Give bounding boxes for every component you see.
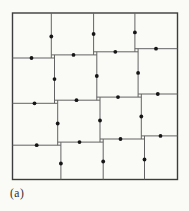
edge-midpoint-dot [33,101,37,105]
edge-midpoint-dot [154,47,158,51]
edge-midpoint-dot [49,35,53,39]
edge-midpoint-dot [35,143,39,147]
edge-midpoint-dot [92,32,96,36]
edge-midpoint-dot [75,98,79,102]
edge-midpoint-dot [78,140,82,144]
edge-midpoint-dot [101,160,105,164]
edge-midpoint-dot [119,137,123,141]
edge-midpoint-dot [72,53,76,57]
edge-midpoint-dot [113,50,117,54]
edge-midpoint-dot [139,115,143,119]
edge-midpoint-dot [56,122,60,126]
edge-midpoint-dot [133,31,137,35]
edge-midpoint-dot [30,56,34,60]
edge-midpoint-dot [143,158,147,162]
figure-panel: (a) [0,0,189,211]
edge-midpoint-dot [159,134,163,138]
edge-midpoint-dot [116,95,120,99]
square-tiling-diagram [0,0,189,211]
edge-midpoint-dot [98,119,102,123]
edge-midpoint-dot [95,74,99,78]
edge-midpoint-dot [156,92,160,96]
edge-midpoint-dot [53,77,57,81]
edge-midpoint-dot [59,162,63,166]
subfigure-label: (a) [10,187,24,199]
edge-midpoint-dot [136,71,140,75]
